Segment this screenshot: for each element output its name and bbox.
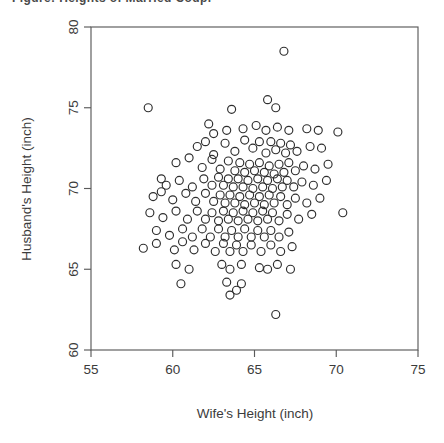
data-point	[226, 191, 234, 199]
x-axis-title-text: Wife's Height (inch)	[197, 406, 314, 421]
data-point	[311, 165, 319, 173]
data-point	[201, 239, 209, 247]
data-point	[309, 181, 317, 189]
data-point	[228, 105, 236, 113]
data-point	[249, 144, 257, 152]
data-point	[275, 217, 283, 225]
data-point	[255, 193, 263, 201]
data-point	[172, 159, 180, 167]
data-point	[152, 239, 160, 247]
data-point	[339, 209, 347, 217]
data-point	[277, 139, 285, 147]
data-point	[183, 215, 191, 223]
data-point	[314, 126, 322, 134]
data-point	[149, 193, 157, 201]
x-tick-label: 55	[83, 362, 98, 377]
data-point	[182, 189, 190, 197]
data-point	[255, 138, 263, 146]
data-point	[170, 246, 178, 254]
data-point	[239, 247, 247, 255]
data-point	[252, 122, 260, 130]
data-point	[322, 176, 330, 184]
data-point	[198, 164, 206, 172]
data-point	[231, 167, 239, 175]
data-point	[165, 231, 173, 239]
data-point	[226, 265, 234, 273]
data-point	[215, 217, 223, 225]
data-point	[295, 215, 303, 223]
data-point	[159, 214, 167, 222]
data-point	[308, 210, 316, 218]
data-point	[221, 199, 229, 207]
data-point	[277, 247, 285, 255]
data-point	[286, 265, 294, 273]
data-point	[273, 260, 281, 268]
data-point	[264, 176, 272, 184]
x-axis-title: Wife's Height (inch)	[197, 406, 314, 421]
data-point	[246, 191, 254, 199]
data-point	[218, 260, 226, 268]
data-point	[185, 154, 193, 162]
data-point	[205, 120, 213, 128]
data-point	[226, 247, 234, 255]
data-point	[270, 199, 278, 207]
data-point	[280, 47, 288, 55]
data-point	[229, 209, 237, 217]
data-point	[282, 149, 290, 157]
data-point	[285, 159, 293, 167]
data-point	[277, 193, 285, 201]
data-point	[169, 196, 177, 204]
data-point	[201, 138, 209, 146]
data-point	[241, 136, 249, 144]
data-point	[306, 143, 314, 151]
data-point	[290, 183, 298, 191]
data-point	[175, 176, 183, 184]
data-point	[285, 228, 293, 236]
data-point	[233, 241, 241, 249]
data-point	[257, 247, 265, 255]
x-tick-marks	[91, 350, 418, 357]
data-point	[260, 233, 268, 241]
data-point	[231, 147, 239, 155]
data-point	[241, 225, 249, 233]
data-point	[198, 225, 206, 233]
data-point	[334, 128, 342, 136]
data-point	[298, 178, 306, 186]
x-tick-label: 65	[247, 362, 262, 377]
data-point	[219, 207, 227, 215]
data-point	[208, 155, 216, 163]
data-point	[251, 167, 259, 175]
data-point	[193, 143, 201, 151]
scatter-plot-figure: Husband's Height (inch) 6065707580 55606…	[0, 0, 444, 443]
data-point	[215, 173, 223, 181]
data-point	[303, 199, 311, 207]
data-point	[188, 183, 196, 191]
y-tick-label: 80	[66, 19, 81, 34]
data-point	[247, 233, 255, 241]
data-point	[267, 226, 275, 234]
data-point	[283, 201, 291, 209]
data-point	[216, 165, 224, 173]
y-tick-label: 70	[66, 181, 81, 196]
y-tick-label: 65	[66, 262, 81, 277]
x-tick-labels: 5560657075	[83, 362, 425, 377]
data-point	[200, 175, 208, 183]
y-tick-marks	[84, 27, 91, 350]
data-point	[228, 226, 236, 234]
y-axis-title-text: Husband's Height (inch)	[19, 117, 34, 261]
data-point	[192, 197, 200, 205]
data-point	[262, 149, 270, 157]
data-point	[234, 175, 242, 183]
data-point	[239, 125, 247, 133]
data-point	[247, 241, 255, 249]
data-point	[272, 104, 280, 112]
data-point	[268, 209, 276, 217]
data-point	[236, 193, 244, 201]
data-point	[264, 96, 272, 104]
data-point	[255, 264, 263, 272]
data-point	[254, 226, 262, 234]
data-point	[255, 159, 263, 167]
x-tick-label: 60	[165, 362, 180, 377]
plot-frame	[91, 27, 418, 350]
x-tick-label: 75	[410, 362, 425, 377]
